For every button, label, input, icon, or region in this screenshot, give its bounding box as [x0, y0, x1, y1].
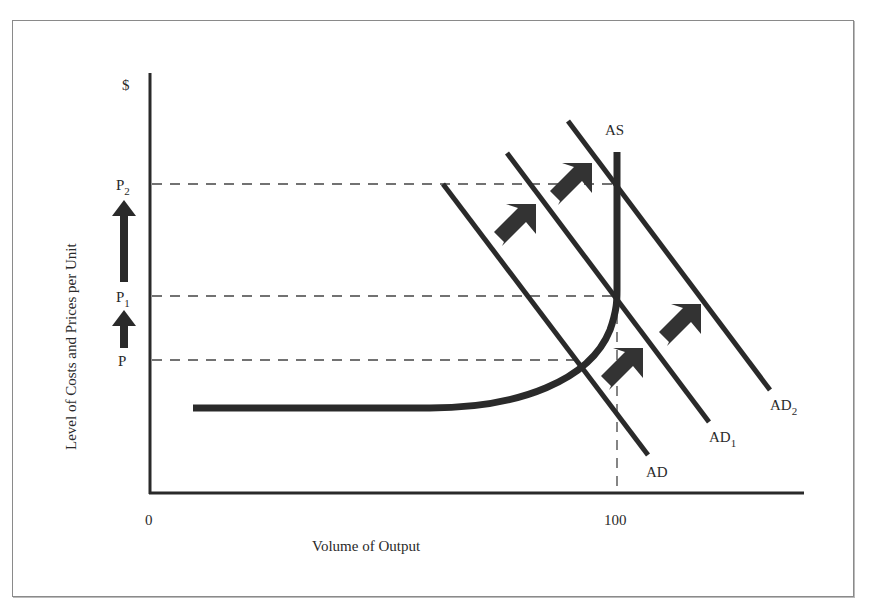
y-axis-title: Level of Costs and Prices per Unit: [63, 243, 79, 450]
price-rise-arrow-icon: [112, 200, 136, 348]
x-tick-100: 100: [604, 512, 627, 528]
chart-canvas: $ P2 P1 P 0 100 Volume of Output Level o…: [0, 0, 876, 610]
ad1-label: AD1: [709, 429, 736, 449]
y-unit-label: $: [122, 77, 130, 93]
x-tick-zero: 0: [145, 512, 153, 528]
ad-label: AD: [646, 464, 668, 480]
as-label: AS: [605, 122, 624, 138]
x-axis-title: Volume of Output: [312, 538, 421, 554]
shift-arrow-icon: [601, 348, 643, 390]
shift-arrow-icon: [659, 304, 701, 346]
dashed-guides: [152, 184, 617, 492]
shift-arrow-icon: [494, 204, 536, 246]
ad2-label: AD2: [770, 397, 797, 417]
y-tick-p: P: [118, 353, 126, 369]
y-tick-p2: P2: [116, 177, 130, 197]
y-tick-p1: P1: [116, 289, 130, 309]
